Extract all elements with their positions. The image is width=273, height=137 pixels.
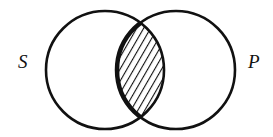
set-s-label: S — [18, 52, 28, 71]
set-p-label: P — [248, 52, 260, 71]
venn-diagram — [0, 0, 273, 137]
